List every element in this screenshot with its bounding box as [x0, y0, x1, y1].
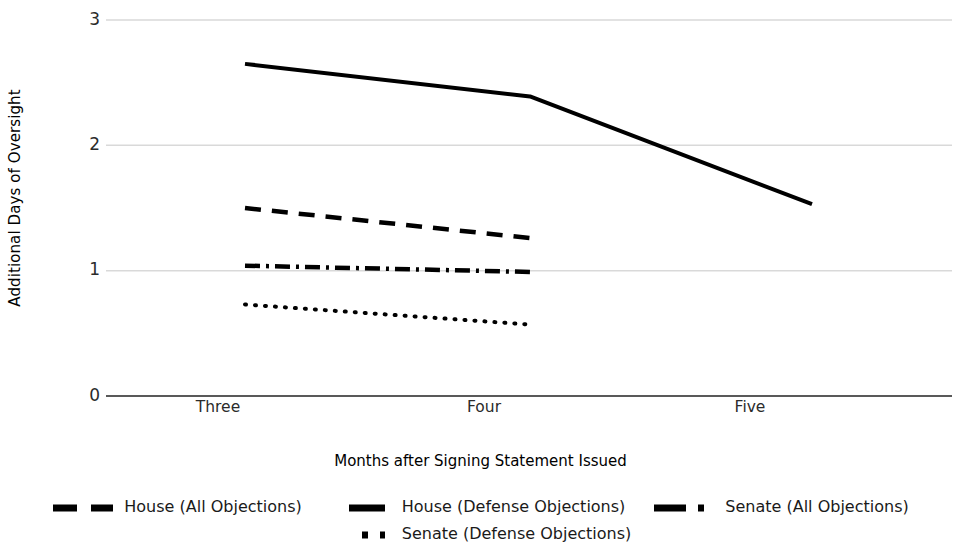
series-line-house-defense-objections — [245, 64, 812, 204]
legend-item-senate-defense-objections[interactable]: Senate (Defense Objections) — [330, 526, 632, 542]
legend-item-house-defense-objections[interactable]: House (Defense Objections) — [330, 499, 626, 515]
legend-swatch-dash-dot-icon — [653, 500, 715, 514]
x-tick-label-three: Three — [138, 400, 298, 416]
legend-item-senate-all-objections[interactable]: Senate (All Objections) — [653, 499, 908, 515]
x-axis-title: Months after Signing Statement Issued — [0, 452, 961, 470]
plot-area — [0, 0, 961, 440]
chart-legend: House (All Objections) House (Defense Ob… — [0, 493, 961, 546]
legend-swatch-dashed-icon — [52, 500, 114, 514]
series-line-senate-defense-objections — [245, 305, 530, 325]
legend-label-senate-all-objections: Senate (All Objections) — [725, 499, 908, 515]
legend-swatch-dotted-icon — [330, 527, 392, 541]
legend-swatch-solid-icon — [330, 500, 392, 514]
legend-label-house-all-objections: House (All Objections) — [124, 499, 301, 515]
x-tick-label-five: Five — [670, 400, 830, 416]
legend-row-2: Senate (Defense Objections) — [0, 520, 961, 546]
series-line-house-all-objections — [245, 208, 530, 238]
legend-label-senate-defense-objections: Senate (Defense Objections) — [402, 526, 632, 542]
x-tick-label-four: Four — [404, 400, 564, 416]
line-chart: Additional Days of Oversight 3 2 1 0 Thr… — [0, 0, 961, 546]
legend-label-house-defense-objections: House (Defense Objections) — [402, 499, 626, 515]
legend-item-house-all-objections[interactable]: House (All Objections) — [52, 499, 301, 515]
legend-row-1: House (All Objections) House (Defense Ob… — [0, 493, 961, 520]
